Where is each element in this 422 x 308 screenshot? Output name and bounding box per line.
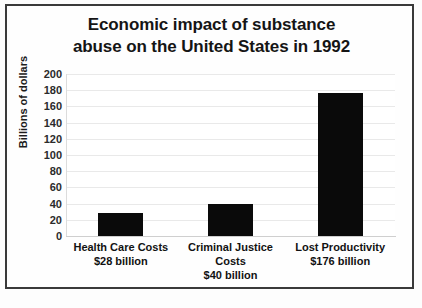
y-axis-title: Billions of dollars	[17, 42, 29, 162]
gridline	[66, 90, 395, 91]
y-tick-label: 120	[32, 133, 62, 144]
bar[interactable]	[208, 204, 253, 236]
y-tick-label: 100	[32, 150, 62, 161]
y-tick-label: 20	[32, 214, 62, 225]
plot-area	[66, 74, 395, 236]
y-tick-label: 80	[32, 166, 62, 177]
y-tick-label: 140	[32, 117, 62, 128]
chart-title-line-2: abuse on the United States in 1992	[19, 36, 404, 58]
y-tick-label: 180	[32, 85, 62, 96]
y-axis-tick-labels: 200180160140120100806040200	[30, 74, 62, 236]
bar[interactable]	[318, 93, 363, 236]
x-category-name: Criminal Justice Costs	[179, 241, 283, 269]
x-category-value: $40 billion	[179, 269, 283, 283]
x-category-label: Criminal Justice Costs$40 billion	[179, 241, 283, 283]
y-tick-label: 40	[32, 198, 62, 209]
y-axis-line	[66, 74, 67, 237]
x-category-name: Lost Productivity	[288, 241, 392, 255]
bar[interactable]	[98, 213, 143, 236]
chart-title: Economic impact of substance abuse on th…	[19, 14, 404, 59]
y-tick-label: 200	[32, 69, 62, 80]
x-category-label: Lost Productivity$176 billion	[288, 241, 392, 269]
x-category-value: $28 billion	[69, 255, 173, 269]
x-axis-line	[66, 236, 396, 237]
figure-container: Economic impact of substance abuse on th…	[0, 0, 422, 308]
y-tick-label: 160	[32, 101, 62, 112]
x-category-name: Health Care Costs	[69, 241, 173, 255]
y-tick-label: 0	[32, 231, 62, 242]
gridline	[66, 74, 395, 75]
y-tick-label: 60	[32, 182, 62, 193]
x-category-label: Health Care Costs$28 billion	[69, 241, 173, 269]
chart-title-line-1: Economic impact of substance	[19, 14, 404, 36]
x-category-value: $176 billion	[288, 255, 392, 269]
